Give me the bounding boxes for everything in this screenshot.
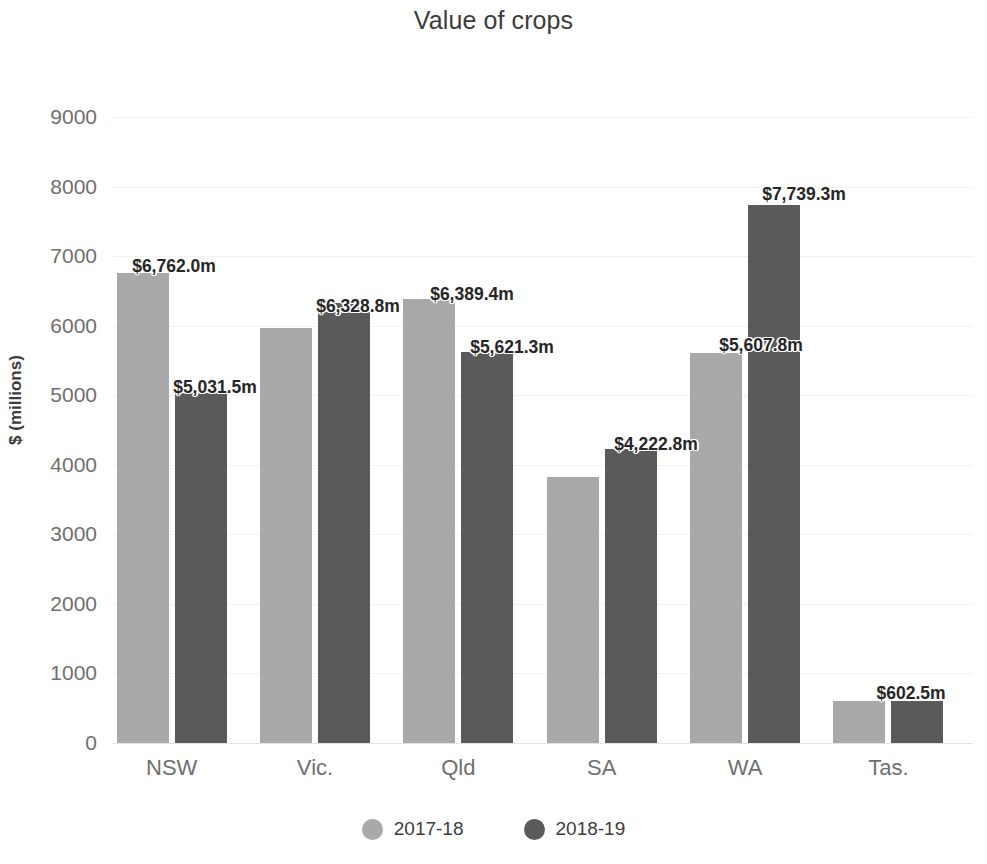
bar-data-label: $6,328.8m bbox=[316, 296, 400, 317]
legend-swatch-icon bbox=[524, 819, 545, 840]
legend-label: 2017-18 bbox=[394, 818, 464, 840]
bar-data-label: $5,621.3m bbox=[470, 337, 554, 358]
bar bbox=[260, 328, 312, 743]
y-axis-tick-label: 5000 bbox=[7, 383, 97, 407]
bar-data-label: $5,031.5m bbox=[173, 377, 257, 398]
gridline bbox=[113, 465, 973, 466]
bar-data-label: $6,389.4m bbox=[430, 284, 514, 305]
bar bbox=[891, 701, 943, 743]
x-axis-tick-label: WA bbox=[728, 755, 763, 781]
bar bbox=[461, 352, 513, 743]
bar bbox=[690, 353, 742, 743]
y-axis-tick-label: 4000 bbox=[7, 453, 97, 477]
gridline bbox=[113, 326, 973, 327]
y-axis-tick-label: 9000 bbox=[7, 105, 97, 129]
gridline bbox=[113, 117, 973, 118]
gridline bbox=[113, 673, 973, 674]
gridline bbox=[113, 534, 973, 535]
bar bbox=[833, 701, 885, 743]
chart-container: Value of crops $ (millions) 900080007000… bbox=[0, 0, 987, 864]
chart-title: Value of crops bbox=[0, 6, 987, 35]
bar bbox=[175, 393, 227, 743]
gridline bbox=[113, 604, 973, 605]
bar-data-label: $5,607.8m bbox=[719, 335, 803, 356]
y-axis-tick-label: 2000 bbox=[7, 592, 97, 616]
y-axis-tick-label: 7000 bbox=[7, 244, 97, 268]
gridline bbox=[113, 743, 973, 744]
y-axis-tick-label: 3000 bbox=[7, 522, 97, 546]
legend-item[interactable]: 2018-19 bbox=[524, 818, 626, 840]
legend-item[interactable]: 2017-18 bbox=[362, 818, 464, 840]
x-axis-tick-label: Vic. bbox=[297, 755, 333, 781]
bar-data-label: $6,762.0m bbox=[132, 256, 216, 277]
x-axis-tick-label: Qld bbox=[441, 755, 475, 781]
y-axis-tick-label: 1000 bbox=[7, 661, 97, 685]
bar bbox=[117, 273, 169, 743]
chart-legend: 2017-182018-19 bbox=[0, 818, 987, 840]
y-axis-tick-label: 8000 bbox=[7, 175, 97, 199]
x-axis-tick-label: Tas. bbox=[868, 755, 908, 781]
bar-data-label: $7,739.3m bbox=[762, 184, 846, 205]
x-axis-tick-label: SA bbox=[587, 755, 616, 781]
x-axis-tick-label: NSW bbox=[146, 755, 197, 781]
legend-swatch-icon bbox=[362, 819, 383, 840]
y-axis-tick-label: 6000 bbox=[7, 314, 97, 338]
bar-data-label: $4,222.8m bbox=[614, 434, 698, 455]
y-axis-tick-label: 0 bbox=[7, 731, 97, 755]
bar bbox=[605, 449, 657, 743]
bar bbox=[748, 205, 800, 743]
gridline bbox=[113, 256, 973, 257]
bar bbox=[318, 303, 370, 743]
bar-data-label: $602.5m bbox=[876, 683, 945, 704]
bar bbox=[403, 299, 455, 743]
bar bbox=[547, 477, 599, 743]
plot-area: 9000800070006000500040003000200010000 bbox=[113, 117, 973, 743]
legend-label: 2018-19 bbox=[556, 818, 626, 840]
